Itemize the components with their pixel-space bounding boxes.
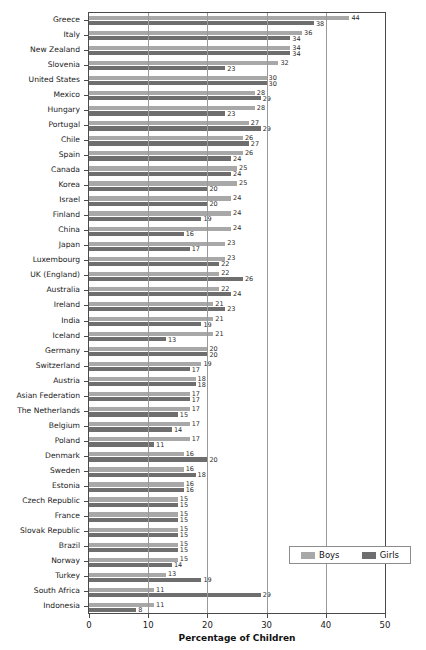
bar-girls xyxy=(89,412,178,416)
bar-boys xyxy=(89,166,237,170)
bar-girls xyxy=(89,608,136,612)
y-axis-label-south-africa: South Africa xyxy=(34,587,80,595)
bar-boys xyxy=(89,543,178,547)
bar-boys xyxy=(89,151,243,155)
bar-girls xyxy=(89,367,190,371)
bar-value-label-girls: 8 xyxy=(138,607,142,614)
legend-item-girls: Girls xyxy=(362,550,399,560)
y-axis-label-chile: Chile xyxy=(61,136,80,144)
bar-boys xyxy=(89,272,219,276)
bar-value-label-girls: 17 xyxy=(192,397,200,404)
bar-boys xyxy=(89,407,190,411)
bar-value-label-girls: 17 xyxy=(192,367,200,374)
y-axis-label-ireland: Ireland xyxy=(54,301,80,309)
bar-boys xyxy=(89,46,290,50)
bar-girls xyxy=(89,156,231,160)
plot-area: 4438363434343223303028292823272926272624… xyxy=(88,12,386,614)
bar-value-label-boys: 21 xyxy=(215,316,223,323)
bar-boys xyxy=(89,528,178,532)
gridline-30 xyxy=(267,13,268,613)
bar-boys xyxy=(89,452,184,456)
x-axis-tick-label-30: 30 xyxy=(261,620,272,630)
bar-boys xyxy=(89,332,213,336)
y-axis-label-israel: Israel xyxy=(59,196,80,204)
bar-row: 2123 xyxy=(89,299,385,314)
bar-girls xyxy=(89,21,314,25)
bar-value-label-boys: 17 xyxy=(192,421,200,428)
y-axis-label-indonesia: Indonesia xyxy=(43,602,80,610)
bar-boys xyxy=(89,437,190,441)
bar-row: 2020 xyxy=(89,344,385,359)
bar-girls xyxy=(89,518,178,522)
bar-value-label-girls: 27 xyxy=(251,141,259,148)
gridline-10 xyxy=(148,13,149,613)
bar-value-label-girls: 20 xyxy=(209,201,217,208)
x-axis-tick-label-40: 40 xyxy=(320,620,331,630)
bar-girls xyxy=(89,578,201,582)
bar-value-label-boys: 25 xyxy=(239,180,247,187)
y-axis-label-portugal: Portugal xyxy=(49,121,80,129)
bar-value-label-girls: 13 xyxy=(168,337,176,344)
bar-boys xyxy=(89,588,154,592)
bar-value-label-girls: 30 xyxy=(269,81,277,88)
bar-row: 1917 xyxy=(89,359,385,374)
bar-row: 3030 xyxy=(89,73,385,88)
bar-row: 1620 xyxy=(89,449,385,464)
bar-girls xyxy=(89,473,196,477)
x-axis-tick-20 xyxy=(207,614,208,618)
bar-girls xyxy=(89,217,201,221)
bar-row: 1129 xyxy=(89,585,385,600)
x-axis-tick-30 xyxy=(267,614,268,618)
bar-girls xyxy=(89,322,201,326)
bar-row: 4438 xyxy=(89,13,385,28)
bar-boys xyxy=(89,362,201,366)
bar-girls xyxy=(89,66,225,70)
bar-row: 2624 xyxy=(89,148,385,163)
y-axis-label-canada: Canada xyxy=(51,166,80,174)
bar-value-label-boys: 24 xyxy=(233,210,241,217)
bar-row: 2419 xyxy=(89,209,385,224)
y-axis-label-austria: Austria xyxy=(53,377,80,385)
legend-label-girls: Girls xyxy=(380,550,399,560)
bar-girls xyxy=(89,51,290,55)
bar-boys xyxy=(89,91,255,95)
bar-boys xyxy=(89,61,278,65)
bar-value-label-girls: 18 xyxy=(198,472,206,479)
bar-value-label-girls: 38 xyxy=(316,21,324,28)
bar-boys xyxy=(89,512,178,516)
bar-boys xyxy=(89,76,267,80)
y-axis-label-uk-england: UK (England) xyxy=(30,271,80,279)
bar-girls xyxy=(89,172,231,176)
bar-boys xyxy=(89,242,225,246)
y-axis-label-italy: Italy xyxy=(64,31,80,39)
bar-row: 2113 xyxy=(89,329,385,344)
bar-value-label-boys: 17 xyxy=(192,406,200,413)
x-axis-tick-50 xyxy=(385,614,386,618)
bar-value-label-boys: 26 xyxy=(245,150,253,157)
bar-boys xyxy=(89,497,178,501)
bar-boys xyxy=(89,257,225,261)
bar-value-label-girls: 15 xyxy=(180,532,188,539)
bar-row: 1515 xyxy=(89,495,385,510)
x-axis-tick-10 xyxy=(148,614,149,618)
bar-row: 1618 xyxy=(89,465,385,480)
bar-girls xyxy=(89,96,261,100)
x-axis-title: Percentage of Children xyxy=(88,633,386,643)
bar-value-label-boys: 36 xyxy=(304,30,312,37)
bar-row: 2520 xyxy=(89,179,385,194)
bar-row: 1515 xyxy=(89,510,385,525)
bar-row: 118 xyxy=(89,600,385,615)
y-axis-label-the-netherlands: The Netherlands xyxy=(17,407,80,415)
bar-girls xyxy=(89,277,243,281)
legend-swatch-girls-icon xyxy=(362,552,376,559)
bar-row: 2420 xyxy=(89,194,385,209)
bar-row: 2729 xyxy=(89,118,385,133)
bar-boys xyxy=(89,16,349,20)
y-axis-label-hungary: Hungary xyxy=(48,106,80,114)
y-axis-label-turkey: Turkey xyxy=(55,572,80,580)
bar-girls xyxy=(89,533,178,537)
y-axis-label-slovak-republic: Slovak Republic xyxy=(20,527,80,535)
bar-row: 3634 xyxy=(89,28,385,43)
bar-row: 2627 xyxy=(89,133,385,148)
bar-row: 1818 xyxy=(89,374,385,389)
